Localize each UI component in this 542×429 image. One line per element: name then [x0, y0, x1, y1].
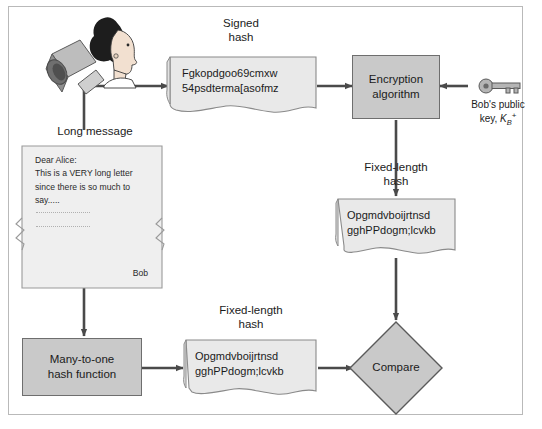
signed-hash-document: Fgkopdgoo69cmxw 54psdterma[asofmz: [170, 57, 316, 105]
key-superscript: +: [512, 111, 517, 120]
public-key-label-line1: Bob's public: [471, 99, 525, 110]
decrypted-hash-text: Opgmdvboijrtnsd gghPPdogm;lcvkb: [338, 208, 436, 238]
key-symbol: K: [500, 113, 507, 124]
computed-hash-document: Opgmdvboijrtnsd gghPPdogm;lcvkb: [186, 341, 316, 387]
long-message-letter: Dear Alice: This is a VERY long letter s…: [22, 144, 162, 287]
letter-signature: Bob: [133, 268, 148, 278]
compare-label: Compare: [346, 361, 446, 373]
decrypted-hash-document: Opgmdvboijrtnsd gghPPdogm;lcvkb: [338, 200, 456, 246]
caption-signed-hash: Signed hash: [186, 16, 296, 45]
signed-hash-text: Fgkopdgoo69cmxw 54psdterma[asofmz: [170, 66, 279, 96]
digital-signature-diagram: Signed hash Long message Fixed-length ha…: [0, 0, 542, 429]
caption-long-message: Long message: [30, 124, 160, 138]
public-key-label: Bob's public key, KB+: [456, 98, 540, 128]
letter-dotted-line-2: [36, 226, 90, 228]
computed-hash-text: Opgmdvboijrtnsd gghPPdogm;lcvkb: [186, 349, 284, 379]
public-key-label-line2: key, KB+: [480, 113, 517, 124]
caption-fixed-length-hash-bottom: Fixed-length hash: [196, 303, 306, 332]
hash-function-box: Many-to-one hash function: [22, 338, 142, 396]
encryption-algorithm-box: Encryption algorithm: [352, 55, 440, 119]
letter-dotted-line-1: [36, 212, 90, 214]
letter-body: Dear Alice: This is a VERY long letter s…: [35, 154, 155, 207]
caption-fixed-length-hash-top: Fixed-length hash: [341, 160, 451, 189]
